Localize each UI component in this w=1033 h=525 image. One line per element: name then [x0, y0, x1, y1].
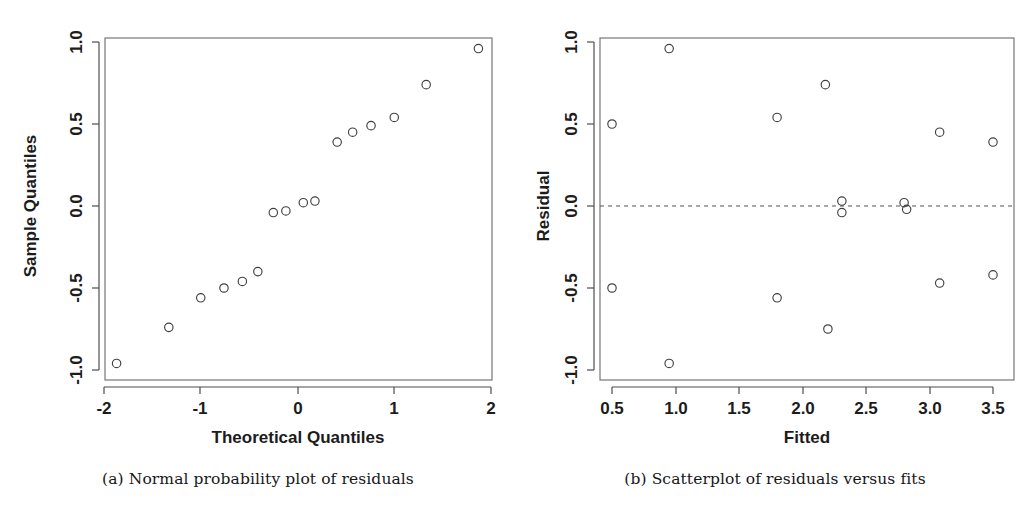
data-point — [773, 113, 781, 121]
x-tick-label-a-1: -1 — [192, 399, 207, 418]
data-point — [112, 359, 120, 367]
data-point — [165, 323, 173, 331]
x-tick-label-b-5: 3.0 — [918, 399, 942, 418]
data-point — [608, 120, 616, 128]
y-tick-label-b-3: 0.5 — [562, 112, 581, 136]
x-axis-group-b: 0.5 1.0 1.5 2.0 2.5 3.0 3.5 — [600, 387, 1005, 418]
x-axis-group-a: -2 -1 0 1 2 — [96, 387, 495, 418]
y-tick-label-a-0: -1.0 — [67, 355, 86, 384]
x-axis-title-a: Theoretical Quantiles — [212, 428, 385, 447]
y-axis-title-a: Sample Quantiles — [21, 135, 40, 278]
x-tick-label-a-2: 0 — [293, 399, 302, 418]
data-point — [935, 279, 943, 287]
x-tick-label-b-2: 1.5 — [727, 399, 751, 418]
data-point-group-a — [112, 44, 482, 367]
normal-probability-plot-svg: 1.0 0.5 0.0 -0.5 -1.0 -2 -1 0 1 2 — [0, 0, 516, 460]
x-tick-label-a-0: -2 — [96, 399, 111, 418]
data-point — [311, 197, 319, 205]
y-tick-label-b-4: 1.0 — [562, 30, 581, 54]
data-point — [282, 207, 290, 215]
data-point — [838, 197, 846, 205]
data-point — [348, 128, 356, 136]
data-point — [254, 267, 262, 275]
data-point — [608, 284, 616, 292]
panel-normal-probability-plot: 1.0 0.5 0.0 -0.5 -1.0 -2 -1 0 1 2 — [0, 0, 516, 525]
x-tick-label-a-4: 2 — [486, 399, 495, 418]
panel-caption-a: (a) Normal probability plot of residuals — [0, 470, 516, 488]
y-tick-label-a-4: 1.0 — [67, 30, 86, 54]
data-point — [238, 277, 246, 285]
data-point — [333, 138, 341, 146]
data-point — [773, 294, 781, 302]
y-tick-label-b-2: 0.0 — [562, 194, 581, 218]
x-axis-title-b: Fitted — [784, 428, 830, 447]
y-axis-group-b: 1.0 0.5 0.0 -0.5 -1.0 — [562, 30, 594, 384]
data-point — [838, 208, 846, 216]
x-tick-label-b-1: 1.0 — [664, 399, 688, 418]
y-tick-label-b-1: -0.5 — [562, 273, 581, 302]
data-point — [220, 284, 228, 292]
y-axis-title-b: Residual — [534, 171, 553, 242]
data-point — [665, 359, 673, 367]
panel-caption-b: (b) Scatterplot of residuals versus fits — [517, 470, 1033, 488]
x-tick-label-b-3: 2.0 — [791, 399, 815, 418]
data-point — [390, 113, 398, 121]
data-point — [422, 80, 430, 88]
y-tick-label-a-3: 0.5 — [67, 112, 86, 136]
residuals-vs-fits-plot-svg: 1.0 0.5 0.0 -0.5 -1.0 0.5 1.0 1.5 2.0 — [517, 0, 1033, 460]
data-point — [824, 325, 832, 333]
figure-container: 1.0 0.5 0.0 -0.5 -1.0 -2 -1 0 1 2 — [0, 0, 1033, 525]
data-point — [269, 208, 277, 216]
data-point — [989, 138, 997, 146]
x-tick-label-b-0: 0.5 — [600, 399, 624, 418]
data-point — [367, 121, 375, 129]
x-tick-label-a-3: 1 — [389, 399, 398, 418]
x-tick-label-b-4: 2.5 — [854, 399, 878, 418]
y-axis-group-a: 1.0 0.5 0.0 -0.5 -1.0 — [67, 30, 99, 384]
data-point — [989, 271, 997, 279]
y-tick-label-a-1: -0.5 — [67, 273, 86, 302]
y-tick-label-b-0: -1.0 — [562, 355, 581, 384]
x-tick-label-b-6: 3.5 — [981, 399, 1005, 418]
data-point — [935, 128, 943, 136]
data-point — [821, 80, 829, 88]
panel-residuals-vs-fits-plot: 1.0 0.5 0.0 -0.5 -1.0 0.5 1.0 1.5 2.0 — [517, 0, 1033, 525]
data-point — [197, 294, 205, 302]
y-tick-label-a-2: 0.0 — [67, 194, 86, 218]
plot-frame-box — [600, 38, 1014, 380]
plot-frame-box — [105, 38, 492, 380]
data-point — [474, 44, 482, 52]
data-point — [299, 199, 307, 207]
data-point — [665, 44, 673, 52]
